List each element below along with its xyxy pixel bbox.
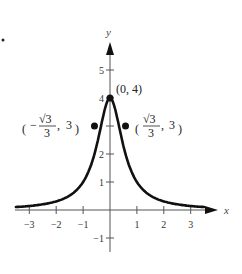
function-graph: x y −3−2−1123−11245 (0, 4) ( − √3 3 , 3 … xyxy=(0,0,242,274)
annotation-right-point: ( √3 3 , 3 ) xyxy=(135,112,182,140)
left-fraction-numerator: √3 xyxy=(39,112,52,126)
comma: , xyxy=(57,118,60,132)
annotation-left-point: ( − √3 3 , 3 ) xyxy=(22,112,79,140)
annotation-top-point: (0, 4) xyxy=(116,82,142,96)
left-fraction-denominator: 3 xyxy=(44,126,50,140)
left-y-value: 3 xyxy=(66,118,72,132)
comma: , xyxy=(161,118,164,132)
right-paren: ) xyxy=(75,122,79,136)
right-fraction-numerator: √3 xyxy=(143,112,156,126)
svg-text:2: 2 xyxy=(161,219,166,230)
x-axis-label: x xyxy=(223,204,229,216)
right-fraction-denominator: 3 xyxy=(148,126,154,140)
svg-text:5: 5 xyxy=(99,65,104,76)
svg-text:1: 1 xyxy=(134,219,139,230)
svg-text:−3: −3 xyxy=(24,219,35,230)
minus-sign: − xyxy=(30,118,37,132)
x-axis-arrow-icon xyxy=(205,206,218,214)
point-marker xyxy=(91,123,98,130)
right-paren: ) xyxy=(178,122,182,136)
svg-text:4: 4 xyxy=(99,93,104,104)
left-paren: ( xyxy=(135,122,139,136)
svg-text:3: 3 xyxy=(188,219,193,230)
svg-text:−2: −2 xyxy=(51,219,62,230)
left-paren: ( xyxy=(22,122,26,136)
svg-text:−1: −1 xyxy=(93,233,104,244)
point-marker xyxy=(107,95,114,102)
point-marker xyxy=(122,123,129,130)
svg-text:−1: −1 xyxy=(78,219,89,230)
y-axis-arrow-icon xyxy=(106,42,114,55)
y-axis-label: y xyxy=(105,26,111,38)
bullet-mark xyxy=(2,39,5,42)
right-y-value: 3 xyxy=(169,118,175,132)
svg-text:1: 1 xyxy=(99,177,104,188)
svg-text:2: 2 xyxy=(99,149,104,160)
